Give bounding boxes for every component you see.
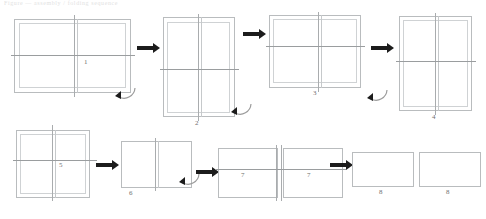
arrow-1-to-2 [137, 46, 154, 50]
step-5-label: 5 [59, 162, 63, 169]
step-3-mullion-shadow [321, 15, 322, 88]
step-1-rail [11, 55, 135, 56]
step-1-mullion-shadow [77, 19, 78, 93]
step-7b-mullion [281, 145, 282, 201]
step-panel-7b: 7 [283, 148, 343, 198]
arrow-7-to-8 [330, 163, 347, 167]
step-4-mullion-shadow [438, 16, 439, 111]
step-2-label: 2 [195, 120, 199, 127]
step-7a-rail [215, 169, 281, 170]
step-5-inner-frame [20, 134, 86, 194]
step-7b-rail [280, 169, 346, 170]
step-panel-2: 2 [163, 17, 235, 117]
step-6-mullion-shadow [158, 141, 159, 188]
rotate-arrow-step-3 [364, 88, 390, 104]
step-8a-frame [352, 152, 414, 187]
step-panel-8b: 8 [419, 152, 481, 187]
step-panel-5: 5 [16, 130, 90, 198]
step-4-mullion [435, 13, 436, 115]
figure-canvas: Figure — assembly / folding sequence 1 2 [0, 0, 486, 219]
step-3-mullion [318, 12, 319, 92]
step-1-mullion [74, 15, 75, 97]
rotate-arrow-step-1 [112, 86, 138, 102]
arrow-5-to-6 [96, 163, 113, 167]
step-3-rail [266, 46, 365, 47]
step-panel-4: 4 [399, 16, 472, 111]
step-2-mullion-shadow [201, 17, 202, 117]
step-5-rail [13, 160, 97, 161]
step-3-label: 3 [313, 90, 317, 97]
step-panel-1: 1 [14, 19, 131, 93]
step-5-mullion [52, 125, 53, 201]
step-7b-label: 7 [307, 172, 311, 179]
step-8b-label: 8 [446, 189, 450, 196]
step-panel-7a: 7 [218, 148, 278, 198]
step-2-rail [160, 69, 239, 70]
step-8a-label: 8 [379, 189, 383, 196]
step-2-mullion [198, 14, 199, 121]
figure-caption: Figure — assembly / folding sequence [4, 0, 118, 6]
step-7a-label: 7 [241, 172, 245, 179]
step-panel-3: 3 [269, 15, 361, 88]
step-7a-mullion [276, 145, 277, 201]
step-6-label: 6 [129, 190, 133, 197]
step-6-mullion [155, 138, 156, 191]
step-4-label: 4 [432, 114, 436, 121]
arrow-3-to-4 [371, 46, 388, 50]
step-7a-frame [218, 148, 278, 198]
step-3-inner-frame [273, 19, 357, 83]
step-8b-frame [419, 152, 481, 187]
step-4-rail [396, 61, 476, 62]
arrow-2-to-3 [243, 32, 260, 36]
step-1-label: 1 [84, 59, 88, 66]
arrow-6-to-7 [196, 170, 213, 174]
rotate-arrow-step-2 [228, 102, 254, 118]
step-7b-frame [283, 148, 343, 198]
step-5-mullion-shadow [55, 130, 56, 198]
step-panel-8a: 8 [352, 152, 414, 187]
rotate-arrow-step-6 [176, 172, 202, 188]
